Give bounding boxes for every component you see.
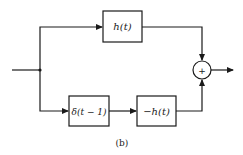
block-diagram: h(t) δ(t − 1) −h(t) + (b) <box>0 0 243 155</box>
top-branch-wire <box>40 27 102 70</box>
neg-h-block-label: −h(t) <box>143 106 170 117</box>
bottom-branch-wire <box>40 70 68 111</box>
h-to-summer-wire <box>142 27 202 60</box>
h-block-label: h(t) <box>113 21 131 32</box>
negh-to-summer-wire <box>176 80 202 111</box>
plus-icon: + <box>198 66 206 76</box>
figure-caption: (b) <box>116 138 129 148</box>
delay-block-label: δ(t − 1) <box>71 107 107 117</box>
